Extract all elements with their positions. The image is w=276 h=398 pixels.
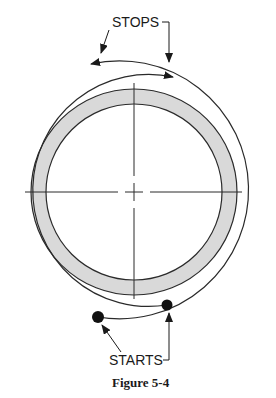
start-dot-inner xyxy=(162,300,173,311)
stops-leader-right xyxy=(162,22,169,62)
starts-leader-left xyxy=(102,325,121,352)
starts-label: STARTS xyxy=(109,352,163,368)
figure-caption: Figure 5-4 xyxy=(112,375,170,390)
stops-label: STOPS xyxy=(112,14,159,30)
stops-leader-left xyxy=(101,30,109,53)
start-dot-outer xyxy=(92,311,104,323)
centerlines xyxy=(25,83,242,299)
figure-diagram: STOPS STARTS Figure 5-4 xyxy=(0,0,276,398)
starts-leader-right xyxy=(163,313,169,360)
